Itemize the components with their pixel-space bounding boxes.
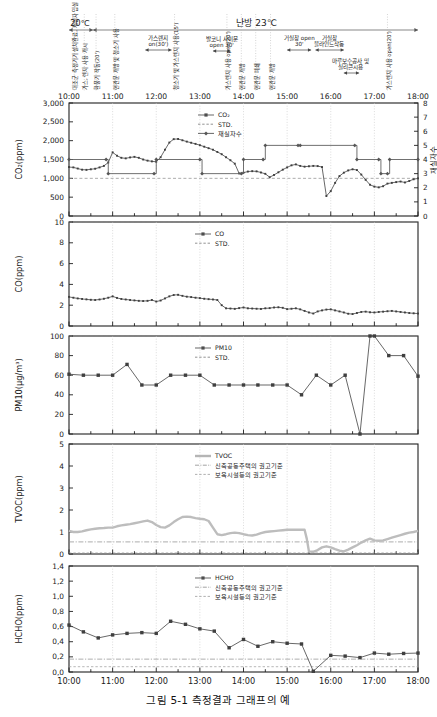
series-marker: [173, 138, 175, 140]
figure-caption: 그림 5-1 측정결과 그래프의 예: [0, 692, 437, 707]
series-marker: [106, 172, 110, 176]
series-marker: [404, 182, 406, 184]
series-marker: [221, 304, 223, 306]
event-horizontal-note: 마루보수공사 및실리콘시용: [332, 57, 369, 75]
series-marker: [169, 374, 172, 377]
series-marker: [369, 184, 371, 186]
series-marker: [339, 310, 341, 312]
series-marker: [373, 651, 376, 654]
y-axis-label: CO(ppm): [14, 256, 24, 293]
note-label: 현관문 개방 및 청소기 사용: [112, 28, 120, 90]
series-marker: [378, 311, 380, 313]
series-marker: [382, 185, 384, 187]
series-marker: [112, 295, 114, 297]
series-marker: [256, 170, 258, 172]
series-marker: [186, 141, 188, 143]
note-arrowhead: [287, 48, 290, 52]
series-marker: [213, 383, 216, 386]
y-tick-label: 2,500: [43, 117, 64, 126]
x-tick-label-top: 13:00: [189, 92, 211, 101]
legend-label: PM10: [215, 344, 232, 351]
y-tick-label: 8: [59, 238, 64, 247]
series-marker: [315, 374, 318, 377]
y-axis-label: PM10(μg/m³): [14, 358, 24, 411]
series-marker: [138, 300, 140, 302]
series-marker: [225, 156, 227, 158]
series-marker: [103, 298, 105, 300]
series-marker: [147, 160, 149, 162]
y-tick-label: 0: [59, 550, 64, 559]
note-label: 대조군 측정기기 설치완료, 재실자 입실 시작: [71, 0, 79, 90]
x-tick-label: 17:00: [363, 676, 387, 686]
series-marker: [107, 297, 109, 299]
series-marker: [271, 383, 274, 386]
series-marker: [229, 159, 231, 161]
y-tick-label: 1,000: [43, 174, 64, 183]
series-marker: [317, 310, 319, 312]
series-marker: [97, 374, 100, 377]
series-marker: [356, 169, 358, 171]
event-vertical-note: 가스렌지 사용 open(20'): [224, 14, 232, 92]
series-marker: [400, 311, 402, 313]
series-marker: [395, 181, 397, 183]
series-marker: [195, 297, 197, 299]
series-marker: [417, 313, 419, 315]
legend-label: STD.: [218, 121, 232, 128]
y-tick-label: 3: [59, 484, 64, 493]
x-tick-label-top: 17:00: [363, 92, 385, 101]
series-marker: [247, 307, 249, 309]
event-vertical-note: 현관문 개방 및 청소기 사용: [112, 14, 120, 92]
legend-entry: 보육시설등의 권고기준: [195, 471, 277, 479]
series-marker: [355, 158, 359, 162]
series-marker: [369, 311, 371, 313]
series-marker: [387, 354, 390, 357]
legend-entry: 신축공동주택의 권고기준: [195, 462, 283, 470]
y-tick-label: 0,8: [52, 607, 64, 616]
event-horizontal-note: 가스렌지on(30'): [145, 34, 171, 52]
series-marker: [391, 310, 393, 312]
series-marker: [404, 312, 406, 314]
series-marker: [400, 181, 402, 183]
series-marker: [152, 172, 156, 176]
series-marker: [221, 153, 223, 155]
series-marker: [269, 176, 271, 178]
series-marker: [263, 143, 267, 147]
series-marker: [86, 298, 88, 300]
series-marker: [300, 393, 303, 396]
series-marker: [169, 620, 172, 623]
y-tick-label: 2,000: [43, 136, 64, 145]
series-marker: [238, 307, 240, 309]
series-marker: [138, 157, 140, 159]
y-tick-label: 20: [55, 410, 65, 419]
series-marker: [334, 309, 336, 311]
series-marker: [198, 374, 201, 377]
series-marker: [317, 165, 319, 167]
series-marker: [343, 172, 345, 174]
series-marker: [358, 656, 361, 659]
note-label: 실리콘시용: [338, 63, 363, 71]
series-marker: [308, 312, 310, 314]
series-marker: [286, 166, 288, 168]
series-marker: [125, 299, 127, 301]
chart-panel-pm10: 020406080100PM10(μg/m³)PM10STD.: [14, 332, 420, 439]
series-marker: [203, 298, 205, 300]
legend-label: HCHO: [215, 574, 234, 581]
note-label: on(30'): [148, 41, 168, 47]
y2-axis-label: 재실자수: [429, 146, 437, 174]
series-marker: [391, 182, 393, 184]
series-marker: [164, 297, 166, 299]
series-marker: [160, 156, 162, 158]
x-tick-label: 14:00: [232, 676, 256, 686]
legend-entry: STD.: [195, 354, 229, 361]
event-vertical-note: 가스렌지 사용 open(20'): [385, 14, 393, 92]
series-marker: [321, 166, 323, 168]
series-marker: [140, 631, 143, 634]
y-tick-label: 2: [59, 506, 64, 515]
series-marker: [111, 374, 114, 377]
series-marker: [300, 642, 303, 645]
event-horizontal-note: 거실창블라인드작동: [314, 34, 344, 52]
series-marker: [77, 168, 79, 170]
series-marker: [334, 182, 336, 184]
x-tick-label-top: 11:00: [102, 92, 124, 101]
series-marker: [81, 169, 83, 171]
